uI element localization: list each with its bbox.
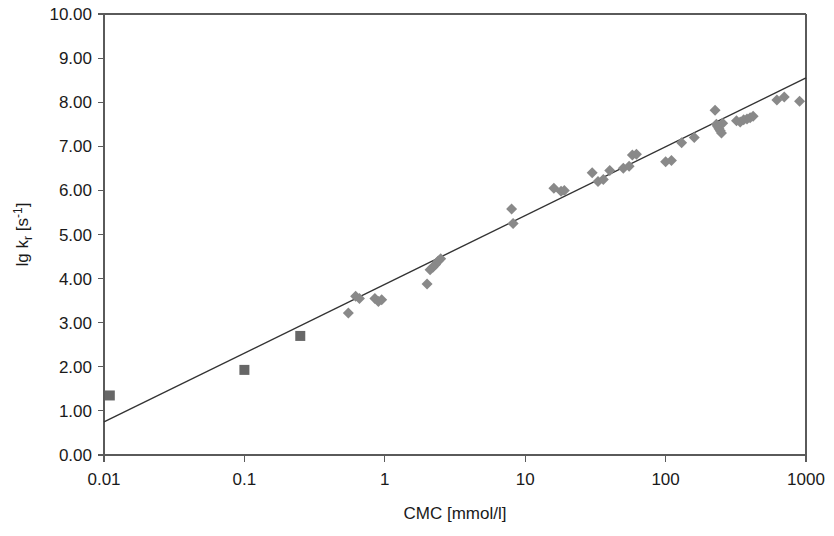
y-title-superscript: -1 [11,207,25,218]
data-point-diamond [506,203,517,214]
data-points [105,91,805,400]
y-tick-label: 6.00 [59,181,92,200]
y-tick-label: 5.00 [59,226,92,245]
y-tick-label: 4.00 [59,270,92,289]
y-tick-label: 9.00 [59,49,92,68]
data-point-diamond [710,105,721,116]
x-tick-label: 0.01 [87,470,120,489]
y-title-lead: lg k [13,239,32,266]
trend-line [104,78,806,422]
y-tick-label: 1.00 [59,402,92,421]
x-tick-label: 10 [516,470,535,489]
data-point-square [239,365,249,375]
y-title-mid: [s [13,218,32,236]
regression-line [104,78,806,422]
y-tick-label: 10.00 [49,5,92,24]
y-tick-label: 0.00 [59,446,92,465]
y-title-tail: ] [13,203,32,208]
chart-figure: 0.001.002.003.004.005.006.007.008.009.00… [0,0,834,536]
y-tick-label: 3.00 [59,314,92,333]
x-axis-ticks: 0.010.11101001000 [87,455,824,489]
x-tick-label: 0.1 [233,470,257,489]
data-point-diamond [676,137,687,148]
data-point-square [295,331,305,341]
plot-frame [104,14,806,455]
x-axis-title: CMC [mmol/l] [404,504,507,523]
x-tick-label: 1 [380,470,389,489]
scatter-plot-canvas: 0.001.002.003.004.005.006.007.008.009.00… [0,0,834,536]
data-point-diamond [343,307,354,318]
data-point-diamond [604,165,615,176]
y-axis-ticks: 0.001.002.003.004.005.006.007.008.009.00… [49,5,104,465]
data-point-square [105,390,115,400]
y-tick-label: 7.00 [59,137,92,156]
data-point-diamond [422,278,433,289]
y-tick-label: 2.00 [59,358,92,377]
y-axis-title: lg kr [s-1] [11,203,35,267]
data-point-diamond [587,167,598,178]
data-point-diamond [794,96,805,107]
y-tick-label: 8.00 [59,93,92,112]
x-tick-label: 1000 [787,470,825,489]
data-point-diamond [689,132,700,143]
x-tick-label: 100 [651,470,679,489]
